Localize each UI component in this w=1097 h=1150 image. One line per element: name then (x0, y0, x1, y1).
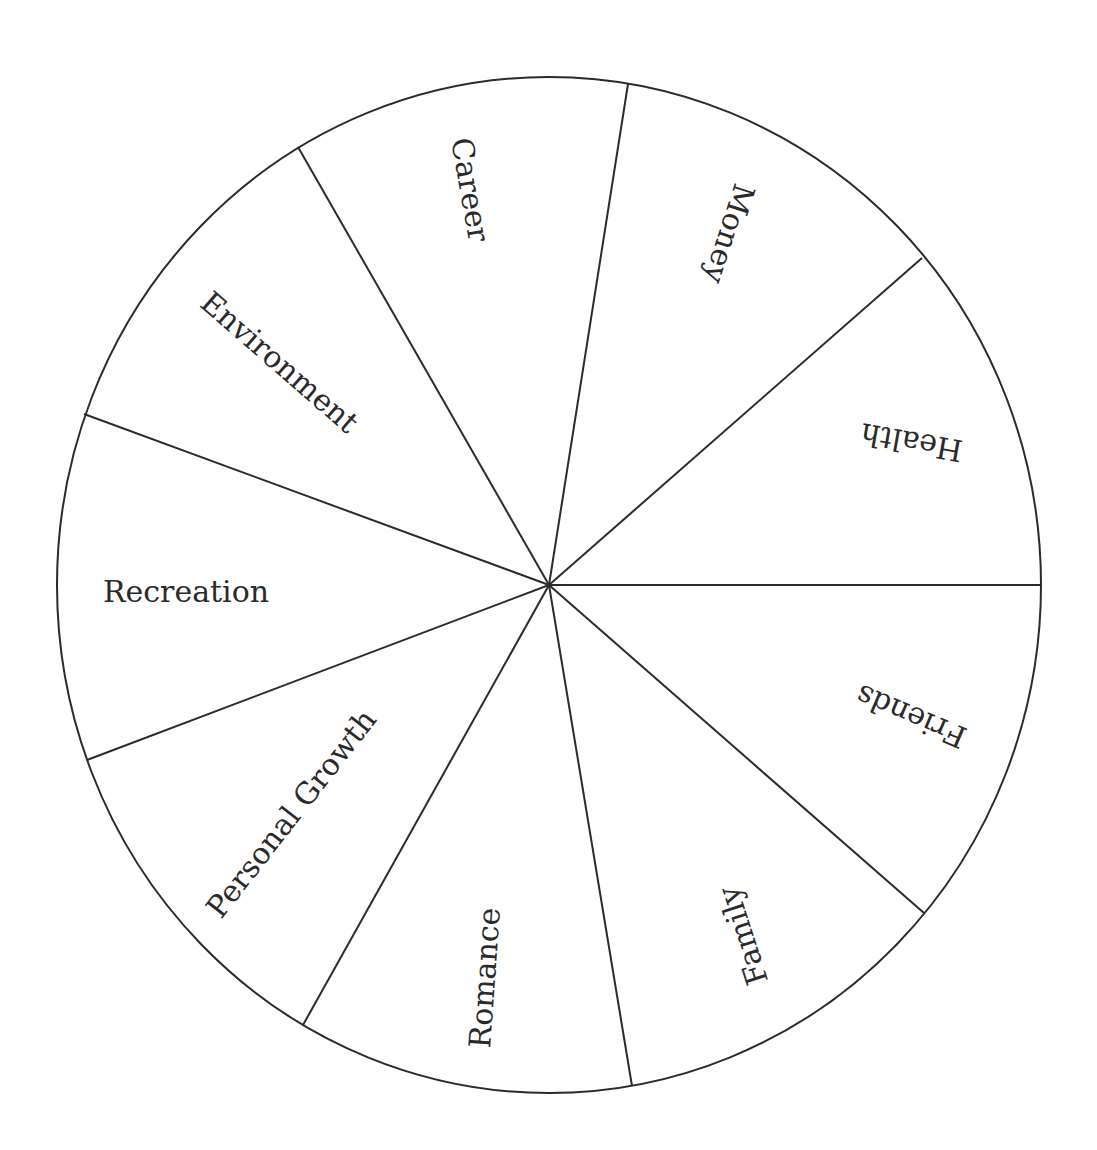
segment-label-recreation: Recreation (103, 574, 269, 609)
life-wheel-diagram: Career Money Health Friends Family Roman… (0, 0, 1097, 1150)
